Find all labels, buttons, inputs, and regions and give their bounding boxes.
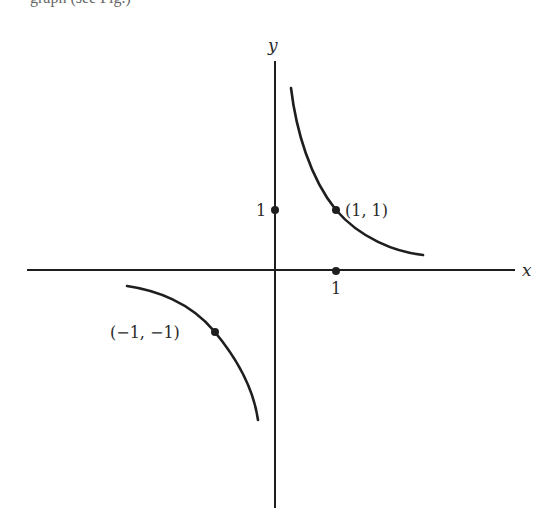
- hyperbola-chart: x y 1 1 (1, 1) (−1, −1): [0, 0, 555, 523]
- curve-upper-branch: [291, 88, 423, 255]
- curve-lower-branch: [127, 286, 258, 420]
- point-x-tick-1: [332, 267, 340, 275]
- y-tick-label: 1: [256, 201, 266, 220]
- x-axis-label: x: [522, 260, 532, 280]
- point-y-tick-1: [271, 206, 279, 214]
- figure: graph (see Fig.) x y 1 1 (1, 1) (−1, −1): [0, 0, 555, 523]
- caption-partial: graph (see Fig.): [30, 0, 131, 7]
- point-label-neg1-neg1: (−1, −1): [110, 323, 180, 342]
- point-1-1: [332, 206, 340, 214]
- point-neg1-neg1: [211, 328, 219, 336]
- point-label-1-1: (1, 1): [345, 201, 388, 220]
- y-axis-label: y: [267, 35, 278, 55]
- x-tick-label: 1: [331, 279, 341, 298]
